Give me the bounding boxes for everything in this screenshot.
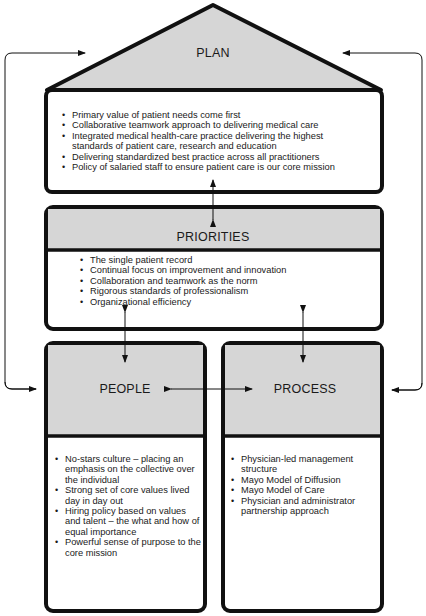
process-item: Mayo Model of Care xyxy=(231,485,376,495)
priorities-item: Continual focus on improvement and innov… xyxy=(80,265,360,275)
people-item: Powerful sense of purpose to the core mi… xyxy=(55,537,201,558)
priorities-item: Rigorous standards of professionalism xyxy=(80,286,360,296)
process-list: Physician-led management structure Mayo … xyxy=(231,454,376,516)
priorities-title: PRIORITIES xyxy=(163,230,263,244)
people-item: No-stars culture – placing an emphasis o… xyxy=(55,454,201,485)
people-title: PEOPLE xyxy=(85,382,165,396)
plan-item: Policy of salaried staff to ensure patie… xyxy=(62,162,362,172)
plan-item: Integrated medical health-care practice … xyxy=(62,131,362,152)
priorities-item: Collaboration and teamwork as the norm xyxy=(80,276,360,286)
priorities-list: The single patient record Continual focu… xyxy=(80,255,360,307)
process-title: PROCESS xyxy=(260,382,350,396)
process-item: Physician and administrator partnership … xyxy=(231,496,376,517)
plan-title: PLAN xyxy=(163,46,263,60)
priorities-item: The single patient record xyxy=(80,255,360,265)
priorities-item: Organizational efficiency xyxy=(80,297,360,307)
process-item: Mayo Model of Diffusion xyxy=(231,475,376,485)
people-item: Strong set of core values lived day in d… xyxy=(55,485,201,506)
plan-item: Collaborative teamwork approach to deliv… xyxy=(62,120,362,130)
plan-item: Primary value of patient needs come firs… xyxy=(62,110,362,120)
process-item: Physician-led management structure xyxy=(231,454,376,475)
plan-list: Primary value of patient needs come firs… xyxy=(62,110,362,172)
people-item: Hiring policy based on values and talent… xyxy=(55,506,201,537)
people-list: No-stars culture – placing an emphasis o… xyxy=(55,454,201,558)
plan-item: Delivering standardized best practice ac… xyxy=(62,152,362,162)
